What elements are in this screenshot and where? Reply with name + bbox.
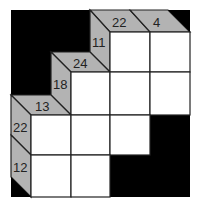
cell-r2-c3[interactable] xyxy=(110,72,150,115)
cell-r3-c1[interactable] xyxy=(31,115,71,155)
cell-r3-c3[interactable] xyxy=(110,115,150,155)
cell-r4-c1[interactable] xyxy=(31,155,71,197)
column-clue-col3: 22 xyxy=(112,15,126,30)
row-clue-row3: 22 xyxy=(13,120,27,135)
row-clue-row2: 18 xyxy=(53,77,67,92)
column-clue-col1: 13 xyxy=(35,99,49,114)
row-clue-row1: 11 xyxy=(92,35,106,50)
row-clue-row4: 12 xyxy=(13,160,27,175)
cell-r2-c4[interactable] xyxy=(150,72,190,115)
cell-r3-c2[interactable] xyxy=(71,115,110,155)
column-clue-col4: 4 xyxy=(153,15,160,30)
cell-r1-c3[interactable] xyxy=(110,32,150,72)
column-clue-col2: 24 xyxy=(73,56,87,71)
cell-r1-c4[interactable] xyxy=(150,32,190,72)
cell-r4-c2[interactable] xyxy=(71,155,110,197)
kakuro-board: 22 4 24 13 11 18 22 12 xyxy=(0,0,197,207)
cell-r2-c2[interactable] xyxy=(71,72,110,115)
